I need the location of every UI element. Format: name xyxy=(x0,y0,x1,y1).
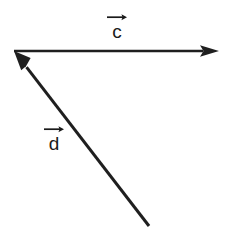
right-arrow-accent-icon xyxy=(43,124,65,133)
vector-label-c-letter: c xyxy=(112,22,122,41)
vector-d xyxy=(14,51,149,226)
vector-diagram-figure: c d xyxy=(0,0,229,236)
vector-label-d-letter: d xyxy=(49,134,60,153)
vector-c xyxy=(14,45,219,57)
vector-label-c: c xyxy=(104,12,130,41)
vector-label-d: d xyxy=(41,124,67,153)
right-arrow-accent-icon xyxy=(106,12,128,21)
